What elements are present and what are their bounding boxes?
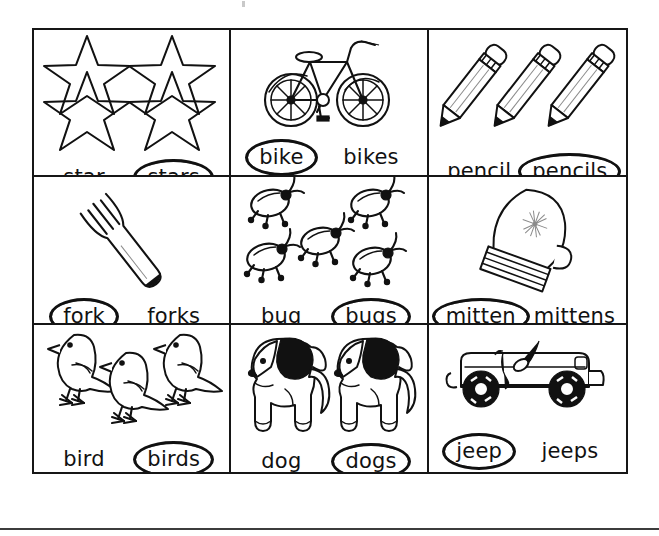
word-choices: bug bugs <box>231 295 426 324</box>
word-option-singular[interactable]: bug <box>252 301 311 325</box>
word-option-singular[interactable]: pencil <box>438 156 520 178</box>
word-option-singular[interactable]: jeep <box>447 436 511 467</box>
word-option-plural[interactable]: mittens <box>525 301 624 325</box>
word-option-plural[interactable]: jeeps <box>532 436 607 467</box>
worksheet-cell-pencil[interactable]: pencil pencils <box>429 30 626 177</box>
picture-bugs <box>231 177 426 295</box>
word-option-plural[interactable]: stars <box>138 162 209 178</box>
word-option-singular[interactable]: mitten <box>437 301 525 325</box>
picture-fork <box>34 177 229 295</box>
worksheet-cell-mitten[interactable]: mitten mittens <box>429 177 626 324</box>
word-choices: pencil pencils <box>429 150 626 177</box>
worksheet-cell-jeep[interactable]: jeep jeeps <box>429 325 626 472</box>
word-choices: fork forks <box>34 295 229 324</box>
worksheet-grid: star stars <box>32 28 628 474</box>
picture-jeep <box>429 325 626 431</box>
picture-dogs <box>231 325 426 441</box>
word-choices: bike bikes <box>231 136 426 177</box>
word-option-plural[interactable]: pencils <box>523 156 616 178</box>
word-choices: bird birds <box>34 439 229 472</box>
worksheet-cell-bird[interactable]: bird birds <box>34 325 231 472</box>
word-choices: jeep jeeps <box>429 431 626 472</box>
picture-pencils <box>429 30 626 150</box>
word-option-singular[interactable]: bike <box>250 142 312 173</box>
worksheet-cell-star[interactable]: star stars <box>34 30 231 177</box>
word-choices: dog dogs <box>231 441 426 472</box>
worksheet-cell-fork[interactable]: fork forks <box>34 177 231 324</box>
word-choices: mitten mittens <box>429 295 626 324</box>
worksheet-cell-bug[interactable]: bug bugs <box>231 177 428 324</box>
picture-mitten <box>429 177 626 295</box>
picture-bicycle <box>231 30 426 136</box>
worksheet-cell-bike[interactable]: bike bikes <box>231 30 428 177</box>
word-option-plural[interactable]: bikes <box>334 142 407 173</box>
word-option-singular[interactable]: bird <box>54 444 114 472</box>
word-option-singular[interactable]: fork <box>54 301 114 325</box>
page-footer-rule <box>0 528 659 530</box>
word-option-plural[interactable]: bugs <box>336 301 406 325</box>
word-option-singular[interactable]: star <box>54 162 113 178</box>
word-option-plural[interactable]: forks <box>138 301 209 325</box>
word-option-singular[interactable]: dog <box>252 446 310 472</box>
worksheet-cell-dog[interactable]: dog dogs <box>231 325 428 472</box>
word-option-plural[interactable]: dogs <box>336 446 405 472</box>
word-option-plural[interactable]: birds <box>138 444 209 472</box>
picture-birds <box>34 325 229 439</box>
picture-stars <box>34 30 229 156</box>
word-choices: star stars <box>34 156 229 177</box>
scan-artifact-speck <box>242 1 245 7</box>
